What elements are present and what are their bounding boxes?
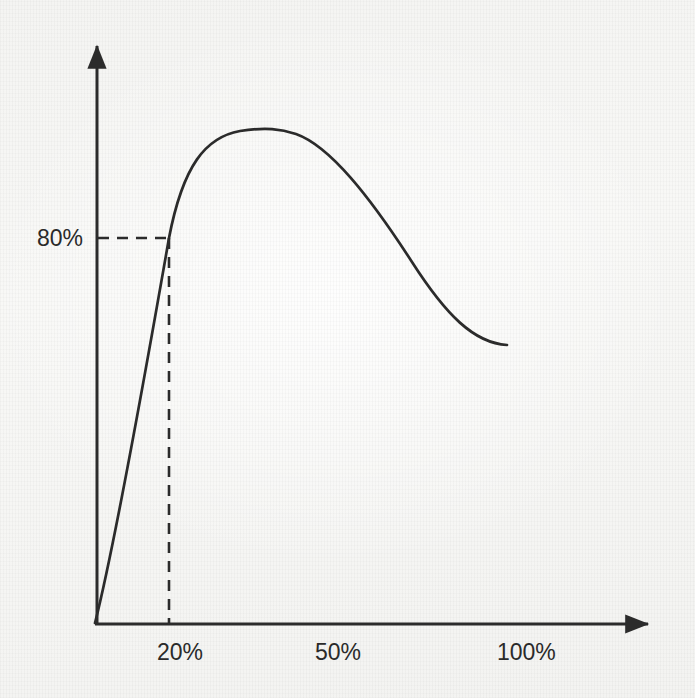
x-axis-tick-label-20: 20% (157, 639, 203, 666)
x-axis-tick-label-100: 100% (497, 639, 556, 666)
chart-page: 80% 20% 50% 100% (0, 0, 695, 698)
data-curve (95, 129, 507, 623)
x-axis-tick-label-50: 50% (315, 639, 361, 666)
chart-canvas (0, 0, 695, 698)
y-axis-tick-label-80: 80% (37, 225, 83, 252)
